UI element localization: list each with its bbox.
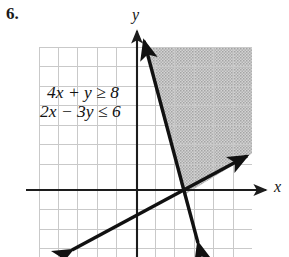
x-axis-label: x	[274, 178, 281, 196]
shaded-solution-region	[147, 47, 253, 196]
inequality-2: 2x − 3y ≤ 6	[40, 102, 170, 121]
inequality-1: 4x + y ≥ 8	[40, 83, 170, 102]
coordinate-plane-figure	[0, 0, 289, 257]
boundary-line-2x-minus-3y	[72, 156, 247, 250]
inequality-annotations: 4x + y ≥ 8 2x − 3y ≤ 6	[40, 83, 170, 121]
figure-page: 6.	[0, 0, 289, 257]
y-axis-label: y	[132, 6, 139, 24]
